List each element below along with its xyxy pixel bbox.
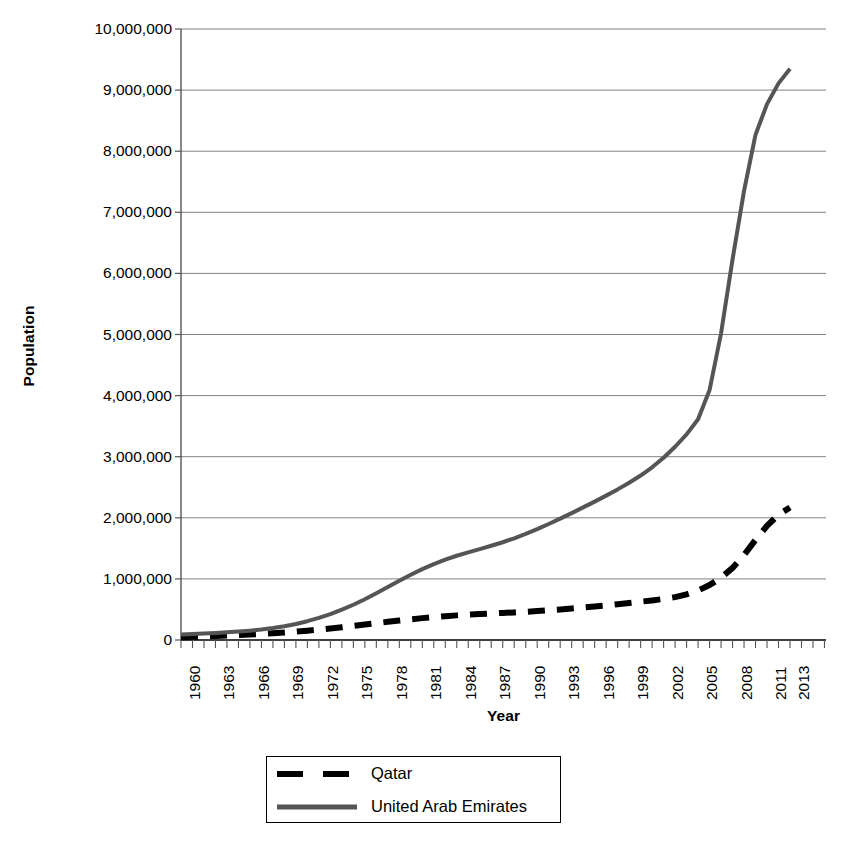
y-tick-label: 8,000,000 — [12, 143, 172, 159]
legend: QatarUnited Arab Emirates — [266, 756, 561, 823]
y-tick-label: 0 — [12, 632, 172, 648]
legend-label: United Arab Emirates — [371, 797, 527, 816]
x-tick-label: 1969 — [290, 666, 306, 700]
x-tick-label: 1978 — [394, 666, 410, 700]
y-tick-label: 1,000,000 — [12, 571, 172, 587]
y-tick-label: 6,000,000 — [12, 265, 172, 281]
x-tick-label: 2013 — [796, 666, 812, 700]
x-axis-title: Year — [181, 707, 826, 725]
x-tick-label: 1987 — [497, 666, 513, 700]
x-tick-label: 1990 — [532, 666, 548, 700]
legend-item[interactable]: Qatar — [267, 757, 560, 790]
y-axis-ticks — [175, 29, 181, 640]
x-tick-label: 1996 — [601, 666, 617, 700]
x-tick-label: 1960 — [187, 666, 203, 700]
y-tick-label: 3,000,000 — [12, 449, 172, 465]
x-tick-label: 1972 — [325, 666, 341, 700]
legend-swatch-united-arab-emirates — [276, 800, 358, 814]
legend-swatch-qatar — [276, 767, 358, 781]
x-tick-label: 2002 — [670, 666, 686, 700]
x-tick-label: 1999 — [635, 666, 651, 700]
y-tick-label: 5,000,000 — [12, 327, 172, 343]
y-tick-label: 2,000,000 — [12, 510, 172, 526]
x-tick-label: 1963 — [221, 666, 237, 700]
legend-item[interactable]: United Arab Emirates — [267, 790, 560, 823]
y-tick-label: 4,000,000 — [12, 388, 172, 404]
x-tick-label: 2008 — [739, 666, 755, 700]
x-tick-label: 1981 — [428, 666, 444, 700]
y-tick-label: 10,000,000 — [12, 21, 172, 37]
gridlines — [181, 29, 826, 640]
x-tick-label: 2005 — [704, 666, 720, 700]
x-tick-label: 2011 — [773, 667, 789, 700]
legend-label: Qatar — [371, 764, 412, 783]
x-axis-ticks — [181, 640, 824, 648]
y-tick-label: 9,000,000 — [12, 82, 172, 98]
series-line-qatar — [181, 507, 790, 637]
y-tick-label: 7,000,000 — [12, 204, 172, 220]
data-series — [181, 69, 790, 637]
series-line-united-arab-emirates — [181, 69, 790, 635]
x-tick-label: 1984 — [463, 666, 479, 700]
x-tick-label: 1975 — [359, 666, 375, 700]
x-tick-label: 1966 — [256, 666, 272, 700]
x-tick-label: 1993 — [566, 666, 582, 700]
population-line-chart: Population 01,000,0002,000,0003,000,0004… — [0, 0, 848, 844]
